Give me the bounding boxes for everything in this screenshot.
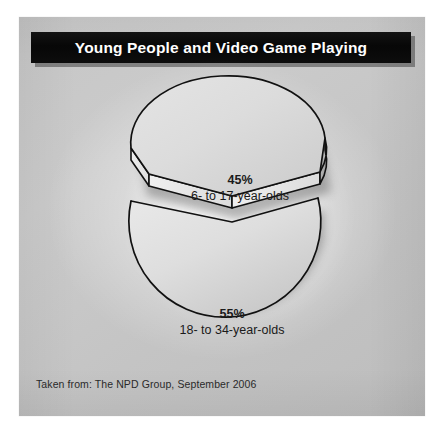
page-title: Young People and Video Game Playing bbox=[75, 39, 367, 57]
pie-slice-45[interactable] bbox=[131, 76, 327, 208]
pie-chart-svg bbox=[19, 60, 425, 360]
figure-root: Young People and Video Game Playing bbox=[0, 0, 443, 431]
source-credit: Taken from: The NPD Group, September 200… bbox=[36, 378, 256, 390]
pie-chart: 45% 6- to 17-year-olds 55% 18- to 34-yea… bbox=[19, 60, 425, 360]
title-bar: Young People and Video Game Playing bbox=[31, 32, 411, 63]
